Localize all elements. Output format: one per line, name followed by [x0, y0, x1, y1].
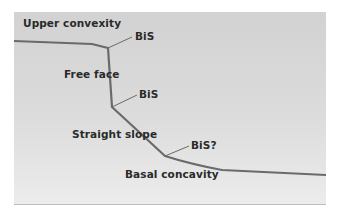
label-free-face: Free face [64, 68, 119, 80]
slope-profile-diagram [0, 0, 337, 214]
label-bis-3: BiS? [191, 139, 217, 151]
slope-profile-line [14, 41, 326, 175]
bis-leader-line-3 [165, 146, 189, 156]
label-straight-slope: Straight slope [72, 128, 157, 140]
label-bis-1: BiS [135, 30, 154, 42]
label-upper-convexity: Upper convexity [23, 17, 121, 29]
bis-leader-line-2 [112, 95, 137, 107]
bis-leader-line-1 [108, 37, 132, 48]
label-bis-2: BiS [139, 88, 158, 100]
label-basal-concavity: Basal concavity [125, 168, 219, 180]
